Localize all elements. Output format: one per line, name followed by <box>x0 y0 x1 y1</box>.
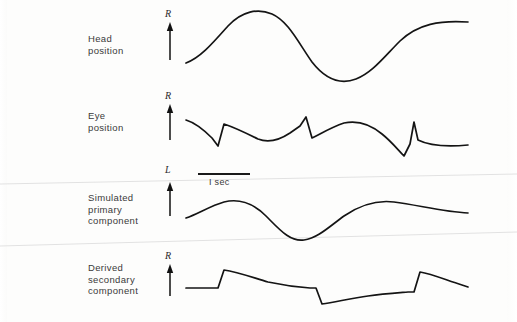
waveform-plot <box>0 0 517 322</box>
arrow-head-eye-position <box>167 104 173 113</box>
row-label-eye-position: Eye position <box>88 110 124 133</box>
trace-derived-secondary-component <box>186 270 468 304</box>
trace-curves <box>186 11 468 304</box>
scale-bar-label: I sec <box>209 177 230 187</box>
trace-head-position <box>186 11 468 81</box>
crease-line-0 <box>0 174 517 184</box>
crease-line-1 <box>0 232 517 246</box>
arrow-head-simulated-primary-component <box>167 182 173 191</box>
direction-label-derived-secondary-component: R <box>165 250 171 261</box>
row-label-derived-secondary-component: Derived secondary component <box>88 262 138 297</box>
arrow-head-derived-secondary-component <box>167 264 173 273</box>
direction-label-head-position: R <box>165 8 171 19</box>
row-label-simulated-primary-component: Simulated primary component <box>88 192 138 227</box>
direction-label-simulated-primary-component: L <box>165 164 171 175</box>
row-label-head-position: Head position <box>88 33 124 56</box>
figure-canvas: Head positionEye positionSimulated prima… <box>0 0 517 322</box>
trace-eye-position <box>186 117 468 156</box>
direction-label-eye-position: R <box>165 90 171 101</box>
arrow-head-head-position <box>167 22 173 31</box>
